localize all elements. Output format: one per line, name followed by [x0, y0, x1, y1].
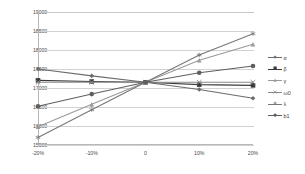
gridline [39, 145, 254, 146]
legend-marker-icon [273, 78, 277, 82]
series-line [38, 44, 253, 126]
legend-marker-icon [273, 55, 277, 59]
legend-item-λ[interactable]: λ [268, 98, 304, 110]
data-point-marker [36, 135, 41, 140]
chart-legend: αβγω0λb1 [268, 52, 304, 122]
series-b1 [36, 64, 256, 109]
legend-swatch-icon [268, 88, 282, 97]
legend-item-b1[interactable]: b1 [268, 110, 304, 122]
x-tick-label: -20% [21, 150, 55, 156]
data-point-marker [197, 87, 202, 92]
data-point-marker [273, 102, 276, 105]
legend-item-α[interactable]: α [268, 52, 304, 64]
legend-marker-icon [273, 90, 277, 94]
data-point-marker [143, 80, 148, 85]
legend-item-ω0[interactable]: ω0 [268, 87, 304, 99]
series-layer [38, 12, 253, 145]
legend-marker-icon [273, 113, 277, 117]
legend-label: β [284, 66, 287, 72]
legend-marker-icon [273, 66, 277, 70]
data-point-marker [36, 104, 41, 109]
x-tick-label: 20% [236, 150, 270, 156]
legend-label: γ [284, 78, 287, 84]
series-line [38, 34, 253, 138]
legend-label: α [284, 55, 287, 61]
data-point-marker [89, 79, 94, 84]
data-point-marker [273, 79, 276, 82]
legend-item-β[interactable]: β [268, 64, 304, 76]
series-λ [36, 31, 256, 139]
series-γ [36, 42, 256, 129]
legend-swatch-icon [268, 65, 282, 74]
data-point-marker [89, 92, 94, 97]
data-point-marker [89, 102, 94, 107]
x-tick-label: 0 [129, 150, 163, 156]
line-chart: 1900018500180001750017000165001600015500… [0, 0, 305, 174]
data-point-marker [251, 96, 256, 101]
data-point-marker [273, 90, 276, 93]
legend-label: ω0 [284, 90, 291, 96]
data-point-marker [273, 113, 276, 116]
legend-label: b1 [284, 113, 290, 119]
legend-swatch-icon [268, 111, 282, 120]
data-point-marker [89, 107, 94, 112]
data-point-marker [273, 67, 276, 70]
x-tick-label: 10% [182, 150, 216, 156]
legend-item-γ[interactable]: γ [268, 75, 304, 87]
legend-swatch-icon [268, 76, 282, 85]
x-tick-label: -10% [75, 150, 109, 156]
data-point-marker [251, 64, 256, 69]
data-point-marker [251, 31, 256, 36]
legend-label: λ [284, 101, 287, 107]
legend-swatch-icon [268, 100, 282, 109]
data-point-marker [197, 53, 202, 58]
data-point-marker [273, 55, 276, 58]
data-point-marker [197, 71, 202, 76]
series-line [38, 66, 253, 106]
legend-marker-icon [273, 101, 277, 105]
legend-swatch-icon [268, 53, 282, 62]
data-point-marker [89, 74, 94, 79]
